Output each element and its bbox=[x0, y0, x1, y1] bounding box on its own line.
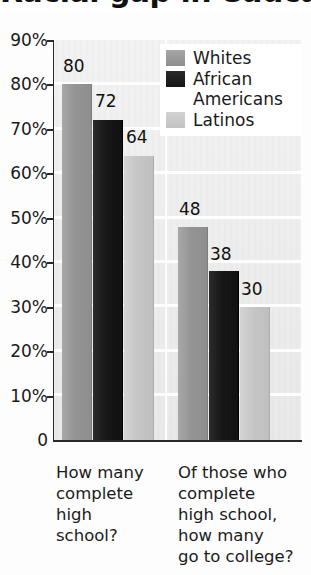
y-axis-tick-50: 50% bbox=[2, 210, 48, 227]
chart-title-cropped: Racial gap in education bbox=[0, 0, 311, 12]
bar-value-label-group1-latinos: 30 bbox=[241, 281, 263, 298]
bar-group1-african-americans bbox=[209, 271, 239, 440]
bar-group1-latinos bbox=[240, 307, 270, 440]
chart-figure: 90% 80% 70% 60% 50% 40% 30% 20% 10% 0 bbox=[0, 12, 311, 575]
y-axis-tick-0: 0 bbox=[2, 432, 48, 449]
y-axis-tick-90: 90% bbox=[2, 32, 48, 49]
y-axis-tick-40: 40% bbox=[2, 254, 48, 271]
bar-group0-latinos bbox=[124, 156, 154, 440]
x-axis-category-1-line4: how many bbox=[178, 525, 308, 546]
bar-value-label-group0-whites: 80 bbox=[63, 58, 85, 75]
legend-swatch-african-americans-icon bbox=[166, 71, 185, 87]
chart-title-text: Racial gap in education bbox=[0, 0, 311, 9]
x-axis-category-0-line3: high bbox=[56, 504, 174, 525]
x-axis-category-1-line3: high school, bbox=[178, 504, 308, 525]
legend-item-african-americans: African Americans bbox=[166, 69, 299, 109]
x-axis-category-1-line2: complete bbox=[178, 483, 308, 504]
y-axis-tick-80: 80% bbox=[2, 76, 48, 93]
x-axis-category-1: Of those who complete high school, how m… bbox=[178, 462, 308, 567]
x-axis-category-0: How many complete high school? bbox=[56, 462, 174, 546]
x-axis-category-1-line5: go to college? bbox=[178, 546, 308, 567]
x-axis-category-0-line4: school? bbox=[56, 525, 174, 546]
bar-value-label-group0-latinos: 64 bbox=[126, 129, 148, 146]
x-axis-category-1-line1: Of those who bbox=[178, 462, 308, 483]
legend-item-latinos: Latinos bbox=[166, 110, 299, 130]
bar-value-label-group0-african-americans: 72 bbox=[95, 93, 117, 110]
legend-label-latinos: Latinos bbox=[193, 110, 254, 130]
y-axis-tick-20: 20% bbox=[2, 343, 48, 360]
legend-item-whites: Whites bbox=[166, 48, 299, 68]
y-axis-tick-30: 30% bbox=[2, 299, 48, 316]
bar-group0-african-americans bbox=[93, 120, 123, 440]
bar-group0-whites bbox=[62, 84, 92, 440]
chart-legend: Whites African Americans Latinos bbox=[160, 44, 301, 136]
bar-value-label-group1-african-americans: 38 bbox=[210, 246, 232, 263]
x-axis-line bbox=[53, 440, 302, 442]
legend-swatch-whites-icon bbox=[166, 50, 185, 66]
bar-value-label-group1-whites: 48 bbox=[179, 201, 201, 218]
legend-swatch-latinos-icon bbox=[166, 112, 185, 128]
x-axis-category-0-line1: How many bbox=[56, 462, 174, 483]
legend-label-african-americans-line1: African bbox=[193, 69, 252, 89]
x-axis-category-0-line2: complete bbox=[56, 483, 174, 504]
y-axis-tick-10: 10% bbox=[2, 388, 48, 405]
bar-group1-whites bbox=[178, 227, 208, 440]
legend-label-whites: Whites bbox=[193, 48, 251, 68]
y-axis-tick-60: 60% bbox=[2, 165, 48, 182]
y-axis-tick-70: 70% bbox=[2, 121, 48, 138]
legend-label-african-americans-line2: Americans bbox=[193, 89, 283, 109]
